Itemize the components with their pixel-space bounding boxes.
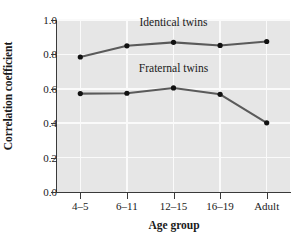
plot-area: Identical twinsFraternal twins bbox=[57, 20, 290, 192]
y-axis-title: Correlation coefficient bbox=[0, 0, 16, 192]
y-axis-tick-mark bbox=[51, 192, 57, 193]
data-point bbox=[171, 40, 176, 45]
data-point bbox=[218, 92, 223, 97]
x-axis-tick-mark bbox=[220, 193, 221, 199]
series-layer bbox=[57, 20, 290, 192]
series-label-2: Fraternal twins bbox=[139, 62, 208, 74]
x-axis-tick-mark bbox=[267, 193, 268, 199]
data-point bbox=[78, 54, 83, 59]
series-label-1: Identical twins bbox=[139, 16, 207, 28]
data-point bbox=[124, 43, 129, 48]
data-point bbox=[124, 91, 129, 96]
x-axis-title: Age group bbox=[57, 218, 291, 232]
data-point bbox=[264, 120, 269, 125]
data-point bbox=[264, 39, 269, 44]
chart-figure: Correlation coefficient 0.00.20.40.60.81… bbox=[0, 0, 303, 240]
data-point bbox=[171, 85, 176, 90]
data-point bbox=[78, 91, 83, 96]
data-point bbox=[218, 43, 223, 48]
series-line bbox=[80, 88, 266, 123]
x-axis-tick-label: Adult bbox=[237, 200, 297, 213]
x-axis-tick-mark bbox=[127, 193, 128, 199]
x-axis-tick-mark bbox=[80, 193, 81, 199]
x-axis-tick-mark bbox=[174, 193, 175, 199]
